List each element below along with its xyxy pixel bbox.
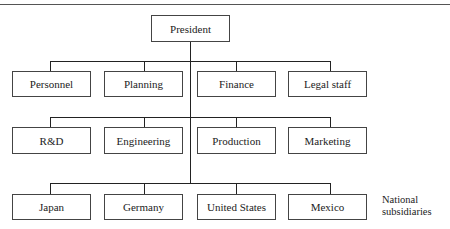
node-label: Engineering xyxy=(117,135,171,147)
side-label-line2: subsidiaries xyxy=(382,206,432,218)
row3-drop xyxy=(236,183,237,194)
row1-drop xyxy=(144,61,145,71)
node-mexico: Mexico xyxy=(288,194,367,220)
row3-drop xyxy=(144,183,145,194)
node-label: Personnel xyxy=(30,78,73,90)
node-label: Finance xyxy=(219,78,254,90)
node-label: R&D xyxy=(40,135,64,147)
node-japan: Japan xyxy=(12,194,91,220)
node-label: Japan xyxy=(39,201,64,213)
row2-drop xyxy=(50,117,51,127)
node-united-states: United States xyxy=(197,194,276,220)
row3-drop xyxy=(50,183,51,194)
trunk-line xyxy=(190,42,191,184)
node-legal-staff: Legal staff xyxy=(288,71,367,97)
node-label: Germany xyxy=(123,201,164,213)
row1-drop xyxy=(330,61,331,71)
node-president: President xyxy=(151,15,230,42)
row3-bus xyxy=(50,183,331,184)
node-planning: Planning xyxy=(104,71,183,97)
row1-bus xyxy=(50,61,331,62)
node-rnd: R&D xyxy=(12,127,91,154)
node-label: Legal staff xyxy=(304,78,351,90)
node-germany: Germany xyxy=(104,194,183,220)
row2-bus xyxy=(50,117,331,118)
node-production: Production xyxy=(197,127,276,154)
node-marketing: Marketing xyxy=(288,127,367,154)
node-label: Planning xyxy=(124,78,163,90)
national-subsidiaries-label: National subsidiaries xyxy=(382,194,432,218)
row1-drop xyxy=(236,61,237,71)
row2-drop xyxy=(144,117,145,127)
node-label: Marketing xyxy=(305,135,351,147)
node-label: President xyxy=(170,23,211,35)
node-label: Mexico xyxy=(311,201,345,213)
row2-drop xyxy=(236,117,237,127)
node-engineering: Engineering xyxy=(104,127,183,154)
row1-drop xyxy=(50,61,51,71)
node-personnel: Personnel xyxy=(12,71,91,97)
node-label: Production xyxy=(212,135,260,147)
node-finance: Finance xyxy=(197,71,276,97)
top-rule xyxy=(0,4,450,5)
node-label: United States xyxy=(207,201,266,213)
row2-drop xyxy=(330,117,331,127)
side-label-line1: National xyxy=(382,194,432,206)
row3-drop xyxy=(330,183,331,194)
